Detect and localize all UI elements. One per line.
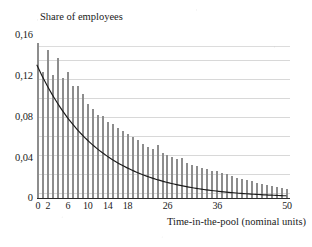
fitted-curve	[37, 32, 290, 198]
plot-area	[37, 32, 290, 198]
y-axis-title: Share of employees	[40, 11, 123, 22]
x-tick-label: 14	[103, 201, 113, 211]
chart-figure: 0,16 0,12 0,08 0,04 0 Share of employees…	[0, 0, 312, 247]
x-tick-label: 6	[65, 201, 70, 211]
x-tick-label: 10	[83, 201, 93, 211]
y-tick-label: 0,04	[3, 153, 33, 164]
y-tick-label: 0,16	[3, 30, 33, 41]
x-tick-label: 18	[123, 201, 133, 211]
x-tick-label: 0	[36, 201, 41, 211]
y-axis-tick-labels: 0,16 0,12 0,08 0,04 0	[0, 0, 33, 247]
x-axis-title: Time-in-the-pool (nominal units)	[167, 216, 306, 227]
y-tick-label: 0,12	[3, 71, 33, 82]
x-tick-label: 50	[282, 201, 292, 211]
x-axis-line	[37, 198, 290, 199]
y-tick-label: 0,08	[3, 112, 33, 123]
x-tick-label: 26	[163, 201, 173, 211]
x-tick-label: 2	[46, 201, 51, 211]
y-tick-label: 0	[3, 193, 33, 204]
x-tick-label: 36	[212, 201, 222, 211]
